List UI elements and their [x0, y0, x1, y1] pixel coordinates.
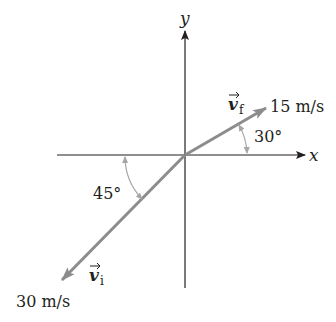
initial-velocity-vector	[62, 155, 185, 280]
x-axis-label: x	[309, 145, 319, 165]
initial-velocity-symbol: v i	[89, 263, 104, 288]
final-velocity-subscript: f	[239, 103, 245, 117]
initial-velocity-angle: 45°	[93, 184, 121, 203]
velocity-vector-diagram: x y v f 15 m/s 30° v i 30 m/s 45°	[0, 0, 336, 322]
angle-arc-45	[125, 157, 142, 199]
y-axis-label: y	[179, 8, 190, 28]
final-velocity-angle: 30°	[254, 127, 282, 146]
angle-arc-30	[239, 125, 247, 153]
initial-velocity-subscript: i	[100, 274, 104, 288]
initial-velocity-magnitude: 30 m/s	[16, 292, 70, 311]
final-velocity-symbol: v f	[228, 92, 245, 117]
final-velocity-magnitude: 15 m/s	[270, 97, 324, 116]
